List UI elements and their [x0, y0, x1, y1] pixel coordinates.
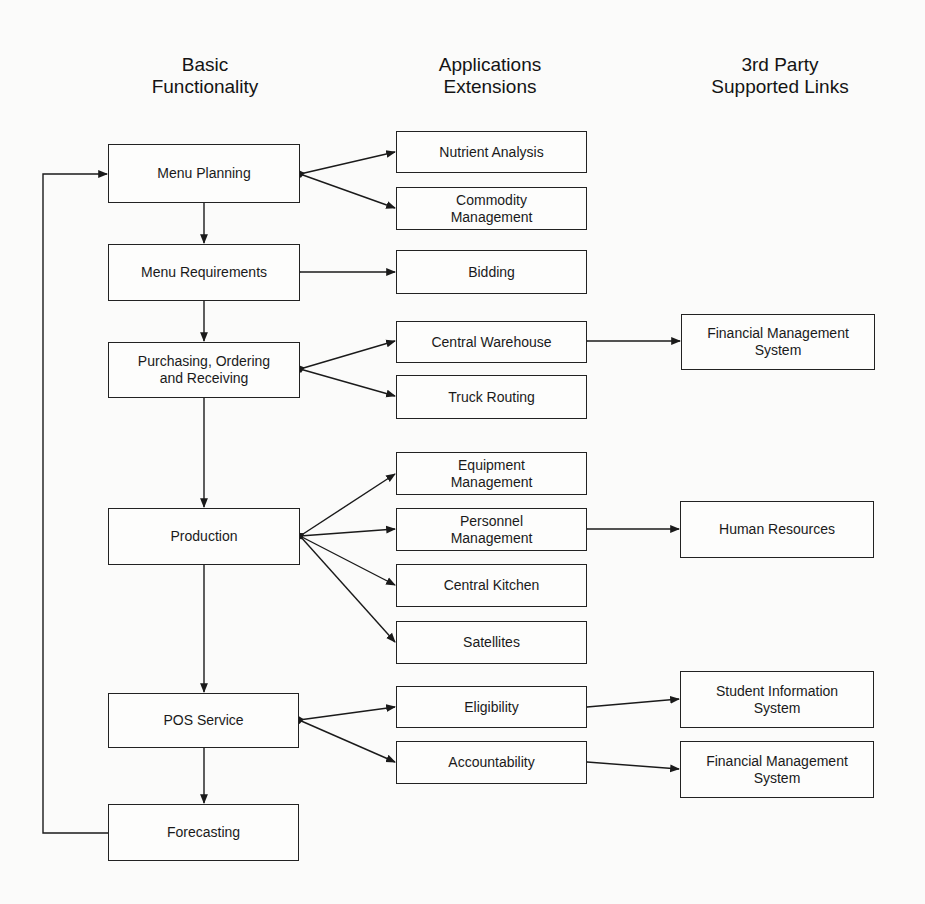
header-applications-extensions: Applications Extensions	[380, 54, 600, 98]
box-student-information-system: Student Information System	[680, 671, 874, 728]
box-menu-requirements: Menu Requirements	[108, 244, 300, 301]
box-personnel-management: Personnel Management	[396, 508, 587, 551]
box-equipment-management: Equipment Management	[396, 452, 587, 495]
box-purchasing-ordering-receiving: Purchasing, Ordering and Receiving	[108, 342, 300, 398]
box-satellites: Satellites	[396, 621, 587, 664]
box-bidding: Bidding	[396, 250, 587, 294]
box-human-resources: Human Resources	[680, 501, 874, 558]
box-truck-routing: Truck Routing	[396, 375, 587, 419]
box-accountability: Accountability	[396, 741, 587, 784]
box-financial-management-system-1: Financial Management System	[681, 314, 875, 370]
header-third-party-links: 3rd Party Supported Links	[665, 54, 895, 98]
box-pos-service: POS Service	[108, 693, 299, 748]
box-eligibility: Eligibility	[396, 686, 587, 728]
box-central-kitchen: Central Kitchen	[396, 564, 587, 607]
box-central-warehouse: Central Warehouse	[396, 321, 587, 363]
box-commodity-management: Commodity Management	[396, 187, 587, 230]
box-menu-planning: Menu Planning	[108, 144, 300, 203]
box-production: Production	[108, 508, 300, 565]
box-forecasting: Forecasting	[108, 804, 299, 861]
box-nutrient-analysis: Nutrient Analysis	[396, 131, 587, 173]
box-financial-management-system-2: Financial Management System	[680, 741, 874, 798]
header-basic-functionality: Basic Functionality	[95, 54, 315, 98]
